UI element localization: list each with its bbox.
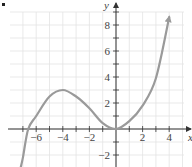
x-tick-label: 4 — [166, 131, 172, 143]
axis-ticks — [23, 12, 169, 155]
y-tick-label: 2 — [105, 97, 111, 109]
y-tick-label: 4 — [105, 71, 111, 83]
x-tick-label: 2 — [140, 131, 146, 143]
x-tick-label: −4 — [57, 131, 69, 143]
y-tick-label: 6 — [105, 45, 111, 57]
function-graph: −6−4−224−22468 x y — [0, 0, 192, 167]
x-tick-label: −2 — [84, 131, 96, 143]
function-curve — [20, 17, 169, 167]
x-axis-label: x — [187, 131, 192, 143]
y-axis-label: y — [103, 0, 109, 11]
grid-lines — [10, 12, 184, 167]
x-tick-label: −6 — [30, 131, 42, 143]
y-tick-label: 8 — [105, 19, 111, 31]
y-tick-label: −2 — [98, 149, 110, 161]
